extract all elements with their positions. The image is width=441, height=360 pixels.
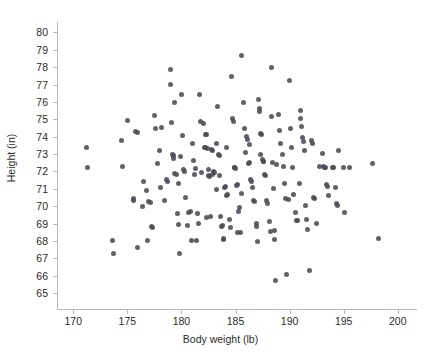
x-axis-spine	[57, 309, 417, 310]
data-point	[135, 245, 140, 250]
data-point	[185, 223, 190, 228]
data-point	[304, 217, 309, 222]
data-point	[84, 145, 89, 150]
data-point	[224, 145, 229, 150]
scatter-plot-figure: 65666768697071727374757677787980 1701751…	[0, 0, 441, 360]
data-point	[215, 104, 220, 109]
data-point	[204, 215, 209, 220]
data-point	[210, 172, 215, 177]
x-tick-label: 200	[378, 315, 418, 327]
x-tick-label: 170	[53, 315, 93, 327]
data-point	[259, 132, 264, 137]
y-tick-label: 75	[24, 114, 48, 124]
y-tick-label: 77	[24, 80, 48, 90]
data-point	[274, 162, 279, 167]
data-point	[182, 169, 187, 174]
y-tick-label: 69	[24, 219, 48, 229]
data-point	[269, 65, 274, 70]
y-tick-label: 68	[24, 236, 48, 246]
data-point	[177, 251, 182, 256]
data-point	[291, 192, 296, 197]
y-axis-title: Height (in)	[5, 103, 17, 213]
data-point	[265, 201, 270, 206]
data-point	[176, 181, 181, 186]
data-point	[247, 142, 252, 147]
data-point	[159, 125, 164, 130]
data-point	[312, 196, 317, 201]
data-point	[376, 236, 381, 241]
data-point	[261, 159, 266, 164]
data-point	[176, 222, 181, 227]
data-point	[120, 164, 125, 169]
x-tick	[127, 310, 128, 314]
data-point	[257, 109, 262, 114]
data-point	[193, 166, 198, 171]
data-point	[158, 185, 163, 190]
data-point	[171, 156, 176, 161]
data-point	[347, 165, 352, 170]
data-point	[290, 165, 295, 170]
data-point	[272, 228, 277, 233]
data-point	[196, 221, 201, 226]
data-point	[252, 199, 257, 204]
x-tick-label: 195	[324, 315, 364, 327]
data-point	[221, 236, 226, 241]
data-point	[298, 116, 303, 121]
data-point	[298, 108, 303, 113]
y-tick-label: 80	[24, 27, 48, 37]
data-point	[228, 225, 233, 230]
data-point	[280, 152, 285, 157]
data-point	[326, 193, 331, 198]
data-point	[217, 153, 222, 158]
data-point	[250, 185, 255, 190]
data-point	[336, 148, 341, 153]
data-point	[269, 114, 274, 119]
data-point	[165, 179, 170, 184]
data-point	[243, 150, 248, 155]
data-point	[241, 100, 246, 105]
x-tick	[344, 310, 345, 314]
data-point	[235, 230, 240, 235]
data-point	[297, 181, 302, 186]
data-point	[145, 238, 150, 243]
data-point	[281, 164, 286, 169]
data-point	[178, 154, 183, 159]
y-tick-label: 70	[24, 201, 48, 211]
data-point	[320, 151, 325, 156]
data-point	[135, 130, 140, 135]
data-point	[276, 112, 281, 117]
data-point	[242, 126, 247, 131]
data-point	[305, 227, 310, 232]
data-point	[254, 221, 259, 226]
data-point	[323, 165, 328, 170]
data-point	[333, 185, 338, 190]
data-point	[174, 172, 179, 177]
data-point	[272, 237, 277, 242]
data-point	[140, 204, 145, 209]
data-point	[204, 132, 209, 137]
data-point	[263, 173, 268, 178]
data-point	[225, 192, 230, 197]
data-point	[293, 210, 298, 215]
data-point	[220, 223, 225, 228]
data-point	[314, 221, 319, 226]
data-point	[295, 218, 300, 223]
x-tick	[236, 310, 237, 314]
data-point	[239, 191, 244, 196]
y-tick-label: 65	[24, 288, 48, 298]
data-point	[301, 139, 306, 144]
data-point	[302, 148, 307, 153]
x-tick-label: 180	[161, 315, 201, 327]
data-point	[278, 141, 283, 146]
y-tick-label: 73	[24, 149, 48, 159]
data-point	[197, 92, 202, 97]
data-point	[189, 238, 194, 243]
x-tick	[290, 310, 291, 314]
data-point	[303, 203, 308, 208]
data-point	[119, 138, 124, 143]
data-point	[258, 152, 263, 157]
data-point	[201, 121, 206, 126]
x-tick	[181, 310, 182, 314]
data-point	[214, 187, 219, 192]
data-point	[267, 219, 272, 224]
